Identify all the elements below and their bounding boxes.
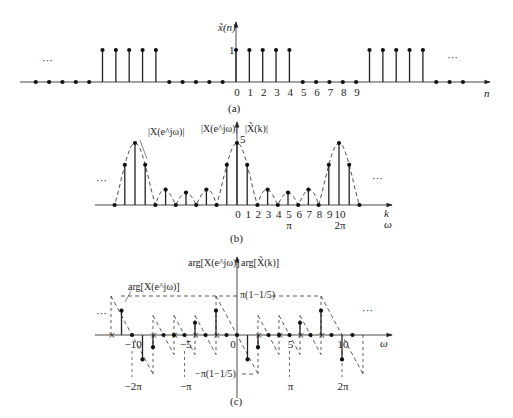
phase-stem-dot [172,333,176,337]
tick-label: 9 [354,87,360,98]
panel-c-upper-level-label: π(1−1/5) [240,290,275,300]
sample-stem-dot [381,48,385,52]
phase-stem-dot [119,309,123,313]
sample-stem-dot [434,80,438,84]
tick-label: −5 [180,339,192,350]
envelope-label-leader [140,140,147,159]
sample-stem-dot [114,48,118,52]
phase-stem-dot [203,333,207,337]
dfs-stem-dot [133,141,137,145]
tick-label: 3 [266,209,272,220]
dfs-stem-dot [164,188,168,192]
phase-stem-dot [193,321,197,325]
tick-label: 2π [334,220,345,231]
panel-c-ellipsis-left: ··· [96,308,107,319]
tick-label: 9 [327,209,333,220]
phase-stem-dot [308,333,312,337]
phase-stem-dot [266,333,270,337]
dtft-phase-sawtooth: ××××××××× [108,296,363,377]
sample-stem-dot [421,48,425,52]
phase-stem-dot [245,357,249,361]
panel-a-ytick-1: 1 [229,45,235,56]
tick-label: −10 [125,339,142,350]
panel-c-ylabel-left: arg[X(e^jω)] [188,258,240,268]
sample-stem-dot [60,80,64,84]
panel-b-caption: (b) [230,233,243,244]
panel-b-ylabel-left: |X(e^jω)| [201,124,237,134]
panel-a-xlabel: n [484,88,490,99]
sample-stem-dot [274,48,278,52]
dfs-stem-dot [204,188,208,192]
panel-c-ylabel-right: arg[X̃(k)] [241,258,279,268]
dfs-stem-dot [327,163,331,167]
sample-stem-dot [461,80,465,84]
phase-label-leader [125,291,131,302]
phase-stem-dot [130,333,134,337]
panel-b-ellipsis-right: ··· [372,173,383,184]
panel-a-caption: (a) [228,103,240,114]
phase-stem-dot [235,333,239,337]
dfs-stem-dot [296,203,300,207]
tick-label: 3 [274,87,280,98]
phase-stem-dot [277,333,281,337]
panel-c-lower-level-label: −π(1−1/5) [195,369,236,379]
sample-stem-dot [261,48,265,52]
phase-stem-dot [287,333,291,337]
panel-b-xlabel-omega: ω [384,219,392,230]
sample-stem-dot [221,80,225,84]
sample-stem-dot [140,48,144,52]
dfs-stem-dot [235,141,239,145]
panel-b-ellipsis-left: ··· [96,175,107,186]
panel-c-envelope-label: arg[X(e^jω)] [128,282,180,292]
tick-label: 2 [261,87,267,98]
panel-c: ××××××××× [95,257,392,398]
panel-a-ellipsis-right: ··· [447,52,458,63]
cross-marker: × [108,330,116,340]
phase-stem-dot [350,333,354,337]
dfs-stem-dot [174,203,178,207]
panel-a-ellipsis-left: ··· [42,55,53,66]
tick-label: 6 [314,87,320,98]
tick-label: −π [180,381,192,392]
panel-b-ytick-5: 5 [240,134,246,145]
sample-stem-dot [367,48,371,52]
tick-label: π [286,220,292,231]
tick-label: 2 [256,209,262,220]
tick-label: 5 [301,87,307,98]
phase-stem-dot [151,345,155,349]
dfs-stem-dot [317,203,321,207]
tick-label: 0 [235,209,241,220]
tick-label: 4 [288,87,294,98]
cross-marker: × [192,330,200,340]
cross-marker: × [150,330,158,340]
panel-b-envelope-label: |X(e^jω)| [148,127,184,137]
dfs-stem-dot [123,163,127,167]
tick-label: 8 [341,87,347,98]
dfs-stem-dot [153,203,157,207]
sample-stem-dot [314,80,318,84]
tick-label: 2π [337,381,348,392]
sample-stem-dot [207,80,211,84]
cross-marker: × [255,330,263,340]
dfs-stem-dot [113,203,117,207]
tick-label: 1 [248,87,254,98]
sample-stem-dot [341,80,345,84]
phase-stem-dot [319,309,323,313]
dfs-stem-dot [306,188,310,192]
sample-stem-dot [394,48,398,52]
sample-stem-dot [127,48,131,52]
sample-stem-dot [47,80,51,84]
tick-label: 8 [317,209,323,220]
dfs-stem-dot [194,203,198,207]
dfs-stem-dot [357,203,361,207]
sample-stem-dot [407,48,411,52]
sample-stem-dot [327,80,331,84]
phase-stem-dot [214,309,218,313]
dfs-stem-dot [143,163,147,167]
tick-label: 0 [234,87,240,98]
dfs-magnitude-stems [113,141,362,207]
sequence-stems [34,48,465,84]
sample-stem-dot [154,48,158,52]
phase-stem-dot [256,345,260,349]
phase-stem-dot [329,333,333,337]
